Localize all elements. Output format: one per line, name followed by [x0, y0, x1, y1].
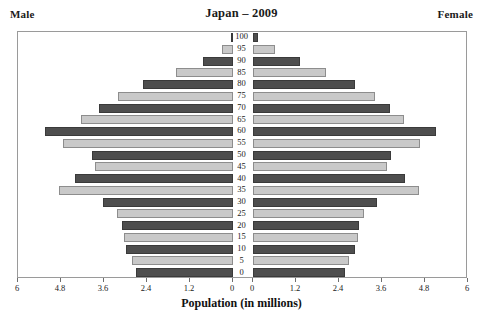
- bar-female-age-5: [253, 256, 349, 265]
- x-tick-right-1.2: 1.2: [290, 283, 301, 293]
- bar-female-age-100: [253, 33, 258, 42]
- bar-male-age-100: [231, 33, 233, 42]
- bars-container: [18, 32, 466, 277]
- bar-male-age-25: [117, 209, 233, 218]
- x-tick-left-6-tickmark: [17, 278, 18, 282]
- bar-female-age-95: [253, 45, 275, 54]
- chart-title: Japan – 2009: [0, 6, 483, 21]
- x-tick-left-0: 0: [230, 283, 234, 293]
- bar-female-age-10: [253, 245, 355, 254]
- bar-male-age-70: [99, 104, 233, 113]
- bar-male-age-5: [132, 256, 233, 265]
- bar-male-age-90: [203, 57, 233, 66]
- pyramid-row: [18, 138, 466, 150]
- x-tick-left-3.6: 3.6: [98, 283, 109, 293]
- bar-female-age-0: [253, 268, 345, 277]
- bar-female-age-75: [253, 92, 375, 101]
- pyramid-row: [18, 91, 466, 103]
- x-tick-left-4.8-tickmark: [60, 278, 61, 282]
- x-tick-right-6-tickmark: [467, 278, 468, 282]
- pyramid-row: [18, 32, 466, 44]
- plot-area: [17, 31, 467, 278]
- bar-female-age-55: [253, 139, 420, 148]
- x-tick-right-2.4: 2.4: [333, 283, 344, 293]
- pyramid-row: [18, 255, 466, 267]
- bar-female-age-40: [253, 174, 405, 183]
- pyramid-row: [18, 150, 466, 162]
- bar-male-age-30: [103, 198, 233, 207]
- pyramid-row: [18, 244, 466, 256]
- bar-male-age-50: [92, 151, 233, 160]
- x-tick-right-6: 6: [465, 283, 469, 293]
- x-tick-left-2.4: 2.4: [141, 283, 152, 293]
- pyramid-row: [18, 79, 466, 91]
- x-tick-left-6: 6: [15, 283, 19, 293]
- bar-male-age-95: [222, 45, 233, 54]
- bar-male-age-45: [95, 162, 233, 171]
- x-tick-left-3.6-tickmark: [103, 278, 104, 282]
- bar-female-age-35: [253, 186, 419, 195]
- x-tick-right-3.6: 3.6: [376, 283, 387, 293]
- pyramid-row: [18, 114, 466, 126]
- bar-female-age-85: [253, 68, 326, 77]
- x-tick-left-0-tickmark: [232, 278, 233, 282]
- bar-male-age-60: [45, 127, 233, 136]
- bar-female-age-70: [253, 104, 390, 113]
- x-tick-right-1.2-tickmark: [295, 278, 296, 282]
- pyramid-row: [18, 103, 466, 115]
- bar-male-age-65: [81, 115, 233, 124]
- pyramid-row: [18, 56, 466, 68]
- x-axis: 64.83.62.41.2001.22.43.64.86: [17, 278, 467, 298]
- pyramid-row: [18, 44, 466, 56]
- x-tick-left-4.8: 4.8: [55, 283, 66, 293]
- bar-female-age-65: [253, 115, 404, 124]
- pyramid-row: [18, 161, 466, 173]
- bar-male-age-15: [124, 233, 233, 242]
- x-tick-left-2.4-tickmark: [146, 278, 147, 282]
- x-tick-right-4.8-tickmark: [424, 278, 425, 282]
- bar-female-age-80: [253, 80, 355, 89]
- x-tick-right-2.4-tickmark: [338, 278, 339, 282]
- pyramid-row: [18, 220, 466, 232]
- pyramid-row: [18, 173, 466, 185]
- bar-male-age-85: [176, 68, 233, 77]
- pyramid-row: [18, 185, 466, 197]
- x-tick-right-4.8: 4.8: [419, 283, 430, 293]
- bar-male-age-80: [143, 80, 233, 89]
- pyramid-row: [18, 232, 466, 244]
- x-tick-right-3.6-tickmark: [381, 278, 382, 282]
- bar-male-age-40: [75, 174, 233, 183]
- bar-female-age-25: [253, 209, 364, 218]
- pyramid-row: [18, 126, 466, 138]
- pyramid-row: [18, 208, 466, 220]
- x-tick-left-1.2-tickmark: [189, 278, 190, 282]
- bar-male-age-75: [118, 92, 233, 101]
- bar-female-age-15: [253, 233, 358, 242]
- pyramid-row: [18, 197, 466, 209]
- bar-female-age-20: [253, 221, 359, 230]
- bar-male-age-55: [63, 139, 233, 148]
- bar-female-age-50: [253, 151, 391, 160]
- bar-female-age-60: [253, 127, 436, 136]
- x-tick-right-0-tickmark: [252, 278, 253, 282]
- x-axis-title: Population (in millions): [0, 296, 483, 311]
- bar-female-age-90: [253, 57, 300, 66]
- bar-female-age-30: [253, 198, 377, 207]
- bar-male-age-10: [126, 245, 233, 254]
- bar-male-age-35: [59, 186, 233, 195]
- bar-male-age-0: [136, 268, 233, 277]
- bar-female-age-45: [253, 162, 387, 171]
- x-tick-left-1.2: 1.2: [184, 283, 195, 293]
- x-tick-right-0: 0: [250, 283, 254, 293]
- bar-male-age-20: [122, 221, 233, 230]
- pyramid-row: [18, 67, 466, 79]
- population-pyramid-chart: Male Japan – 2009 Female 100959085807570…: [0, 0, 483, 317]
- female-axis-label: Female: [438, 8, 473, 20]
